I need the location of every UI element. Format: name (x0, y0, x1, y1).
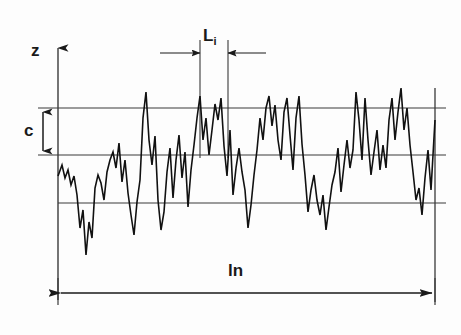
c-dimension-label: c (24, 122, 33, 139)
Li-label-subscript: i (213, 35, 216, 47)
ln-label-subscript: n (233, 261, 243, 280)
ln-dimension-label: ln (228, 262, 243, 279)
z-axis-label: z (31, 42, 40, 59)
Li-label-base: L (203, 26, 213, 45)
profile-diagram-svg (0, 0, 461, 335)
roughness-profile-trace (58, 88, 435, 255)
Li-dimension-label: Li (203, 27, 216, 47)
roughness-profile-figure: z c Li ln (0, 0, 461, 335)
